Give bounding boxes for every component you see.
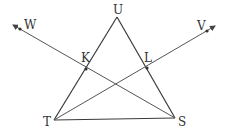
point-w [18,27,21,30]
label-u: U [113,3,123,17]
label-s: S [178,115,186,129]
geometry-diagram: U T S K L W V [0,0,227,132]
segment-ts [54,118,175,120]
label-v: V [196,19,206,33]
label-w: W [24,18,37,32]
label-k: K [81,51,91,65]
point-k [84,67,87,70]
point-l [145,66,148,69]
ray-tv [54,26,215,120]
label-l: L [144,51,152,65]
point-v [205,29,208,32]
ray-sw [13,25,175,118]
label-t: T [43,115,51,129]
